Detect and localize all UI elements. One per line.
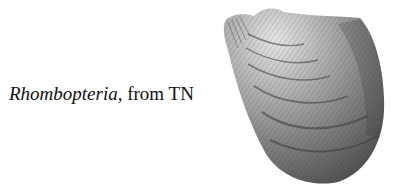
- locality-text: , from TN: [118, 83, 194, 104]
- genus-name: Rhombopteria: [9, 83, 118, 104]
- shell-illustration-icon: [218, 4, 388, 186]
- figure-caption: Rhombopteria, from TN: [9, 83, 194, 105]
- shell-figure: [218, 4, 388, 186]
